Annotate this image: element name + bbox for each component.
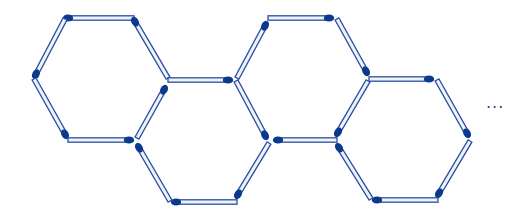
matchstick-body (168, 78, 230, 82)
matchstick-body (68, 138, 131, 142)
matchstick-body (335, 18, 369, 74)
matchstick (332, 79, 371, 138)
matchstick (433, 139, 473, 199)
continuation-ellipsis: ··· (486, 98, 504, 117)
matchstick (434, 78, 473, 139)
matchstick (273, 136, 337, 143)
matchstick (233, 79, 271, 141)
matchstick-body (268, 16, 331, 20)
matchstick-body (375, 198, 438, 202)
matchstick-body (369, 77, 431, 81)
matchstick-body (276, 138, 337, 142)
matchstick-body (136, 145, 172, 202)
matchstick (171, 198, 237, 205)
matchstick-head (324, 14, 334, 21)
matchstick (369, 75, 434, 82)
matchstick-head (424, 75, 434, 82)
matchstick (133, 141, 173, 202)
matchstick-body (66, 16, 134, 20)
matchstick-body (234, 80, 268, 138)
matchstick-body (33, 18, 67, 77)
matchstick (333, 141, 374, 201)
matchstick-body (436, 140, 472, 196)
matchstick (68, 136, 134, 143)
matchstick (30, 17, 68, 80)
matchstick (31, 77, 71, 140)
matchstick-body (335, 80, 370, 135)
matchstick (232, 141, 272, 200)
matchstick (129, 15, 171, 79)
matchstick (268, 14, 334, 21)
matchstick (234, 19, 271, 79)
matchstick-head (124, 136, 134, 143)
matchstick-body (135, 87, 167, 139)
matchstick-hexagon-diagram (0, 0, 531, 220)
matchstick-body (435, 79, 470, 136)
matchstick-body (32, 78, 68, 137)
matchstick (168, 76, 233, 83)
matchstick-body (174, 200, 237, 204)
matchstick-head (273, 136, 283, 143)
matchstick (134, 83, 170, 139)
matchstick-body (235, 142, 271, 197)
matchstick-body (132, 19, 170, 79)
matchstick (372, 196, 438, 203)
matchstick-body (336, 145, 373, 200)
matchstick-body (235, 23, 268, 79)
matchstick-head (223, 76, 233, 83)
matchstick (334, 17, 372, 77)
matchstick (63, 14, 134, 21)
